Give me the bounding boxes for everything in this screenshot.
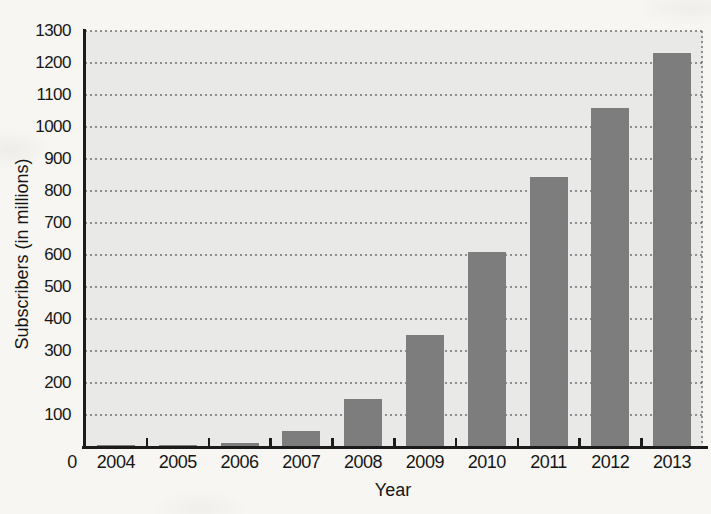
gridline-1300 — [85, 30, 703, 32]
y-axis-tick-labels: 1002003004005006007008009001000110012001… — [0, 0, 79, 447]
x-tick-label-2008: 2008 — [328, 452, 398, 472]
y-tick-label-400: 400 — [44, 310, 71, 328]
bar-2011 — [530, 177, 568, 447]
y-axis-line — [83, 29, 86, 447]
y-tick-label-200: 200 — [44, 374, 71, 392]
y-tick-label-300: 300 — [44, 342, 71, 360]
y-tick-label-1300: 1300 — [35, 22, 71, 40]
bar-2010 — [468, 252, 506, 447]
y-tick-label-800: 800 — [44, 182, 71, 200]
bar-chart-figure: Subscribers (in millions) 10020030040050… — [0, 0, 711, 514]
x-axis-title: Year — [363, 479, 423, 501]
y-tick-label-1200: 1200 — [35, 54, 71, 72]
x-tick-label-2011: 2011 — [514, 452, 584, 472]
bar-2007 — [282, 431, 320, 447]
x-tick-label-2007: 2007 — [266, 452, 336, 472]
x-tick-label-2012: 2012 — [575, 452, 645, 472]
x-tick-label-2005: 2005 — [143, 452, 213, 472]
gridline-1100 — [85, 94, 703, 96]
y-tick-label-100: 100 — [44, 406, 71, 424]
bar-2008 — [344, 399, 382, 447]
plot-area — [85, 31, 703, 447]
bar-2009 — [406, 335, 444, 447]
gridline-1200 — [85, 62, 703, 64]
x-tick-label-2004: 2004 — [81, 452, 151, 472]
y-tick-label-500: 500 — [44, 278, 71, 296]
x-tick-label-2013: 2013 — [637, 452, 707, 472]
y-tick-label-700: 700 — [44, 214, 71, 232]
bar-2013 — [653, 53, 691, 447]
x-axis-line — [82, 446, 708, 449]
x-tick-label-2006: 2006 — [205, 452, 275, 472]
x-tick-label-2009: 2009 — [390, 452, 460, 472]
y-tick-label-1100: 1100 — [36, 86, 71, 104]
bar-2012 — [591, 108, 629, 447]
y-tick-label-600: 600 — [44, 246, 71, 264]
y-tick-label-1000: 1000 — [35, 118, 71, 136]
y-tick-label-900: 900 — [44, 150, 71, 168]
x-tick-label-2010: 2010 — [452, 452, 522, 472]
